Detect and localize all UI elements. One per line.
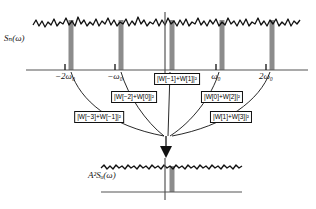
alias-bar [220,20,225,70]
alias-bar [270,20,275,70]
leader-line-m2 [71,72,164,136]
alias-bar [69,20,74,70]
annotation-w-m1-p1: |W[−1]+W[1]|² [154,73,200,85]
tick-label-minus-w0: −ω₀ [107,71,123,81]
figure-canvas [0,0,316,209]
figure-container: Sₙ(ω) −2ω₀ −ω₀ ω₀ 2ω₀ |W[−1]+W[1]|² |W[−… [0,0,316,209]
y-axis-label-top: Sₙ(ω) [4,33,25,43]
alias-bar [119,20,124,70]
annotation-w-m2-p0: |W[−2]+W[0]|² [111,91,157,103]
alias-bars-top [69,20,275,70]
tick-label-2w0: 2ω₀ [259,71,273,81]
down-arrow-icon [160,136,172,158]
aliased-bar-bottom [170,166,175,192]
annotation-w-p1-p3: |W[1]+W[3]|² [210,111,252,123]
y-axis-label-bottom: A²Sᵤ(ω) [88,170,116,180]
noise-spectrum-trace-bottom [101,165,242,169]
annotation-w-p0-p2: |W[0]+W[2]|² [201,91,243,103]
annotation-w-m3-m1: |W[−3]+W[−1]|² [74,111,124,123]
alias-bar [170,20,175,70]
tick-label-minus-2w0: −2ω₀ [55,71,75,81]
tick-label-w0: ω₀ [211,71,220,81]
